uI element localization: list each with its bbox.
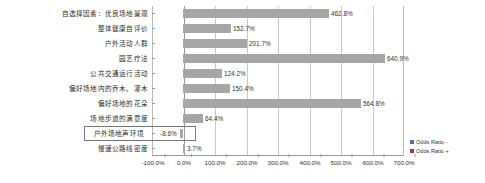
bar-value-label: 201.7% [249, 36, 271, 51]
bar-segment [183, 9, 329, 18]
bar-value-label: 150.4% [232, 81, 254, 96]
bar-row: 偏好场地的花朵 564.8% [0, 96, 485, 111]
category-label: 自选择因素：优良场地景观 [62, 6, 148, 21]
x-tick-label: 200.0% [237, 157, 258, 169]
axis-tick-stub [152, 103, 155, 104]
bar-value-label: 462.8% [331, 6, 353, 21]
bar-segment [183, 84, 230, 93]
legend-label: Odds Ratio + [416, 147, 449, 155]
x-tickmark [165, 154, 166, 157]
bar-value-label: 564.8% [363, 96, 385, 111]
axis-tick-stub [152, 13, 155, 14]
axis-tick-stub [152, 43, 155, 44]
bar-value-label: 152.7% [233, 21, 255, 36]
x-tick-label: 300.0% [268, 157, 289, 169]
bar-value-label: 64.4% [205, 111, 223, 126]
category-label: 慢速公路线密度 [98, 141, 148, 156]
x-tick-label: 100.0% [205, 157, 226, 169]
x-tick-label: 600.0% [363, 157, 384, 169]
bar-value-label: 3.7% [187, 141, 202, 156]
odds-ratio-bar-chart: 自选择因素：优良场地景观 462.8% 整体健康自评价 152.7% 户外活动人… [0, 0, 485, 183]
bar-segment [183, 69, 222, 78]
bar-segment [183, 144, 185, 153]
bar-segment [183, 54, 385, 63]
x-tickmark [321, 154, 322, 157]
bar-row: 自选择因素：优良场地景观 462.8% [0, 6, 485, 21]
x-tickmark [352, 154, 353, 157]
category-label: 户外活动人群 [105, 36, 148, 51]
axis-tick-stub [152, 118, 155, 119]
bar-segment [183, 24, 231, 33]
x-tick-label: 700.0% [394, 157, 415, 169]
bar-row: 偏好场地内的乔木、灌木 150.4% [0, 81, 485, 96]
bar-value-label: -8.6% [160, 126, 177, 141]
legend-item: Odds Ratio - [410, 138, 485, 146]
category-label: 户外场地声环境 [94, 126, 144, 141]
bar-rows: 自选择因素：优良场地景观 462.8% 整体健康自评价 152.7% 户外活动人… [0, 6, 485, 156]
bar-row: 整体健康自评价 152.7% [0, 21, 485, 36]
legend-item: Odds Ratio + [410, 147, 485, 155]
x-tickmark [384, 154, 385, 157]
axis-tick-stub [152, 28, 155, 29]
legend-swatch-icon [410, 149, 414, 153]
bar-row: 场地步道的满意度 64.4% [0, 111, 485, 126]
bar-value-label: 124.2% [224, 66, 246, 81]
legend-label: Odds Ratio - [416, 138, 447, 146]
x-tickmark [258, 154, 259, 157]
x-tick-label: 400.0% [300, 157, 321, 169]
axis-tick-stub [152, 148, 155, 149]
axis-tick-stub [152, 133, 155, 134]
bar-row: 公共交通运行活动 124.2% [0, 66, 485, 81]
chart-legend: Odds Ratio - Odds Ratio + [410, 138, 485, 156]
bar-row: 园艺疗法 640.9% [0, 51, 485, 66]
x-tickmark [191, 154, 192, 157]
bar-row: 户外活动人群 201.7% [0, 36, 485, 51]
axis-tick-stub [152, 88, 155, 89]
category-label: 场地步道的满意度 [90, 111, 148, 126]
category-label: 偏好场地的花朵 [98, 96, 148, 111]
axis-tick-stub [152, 73, 155, 74]
bar-segment [183, 114, 203, 123]
x-axis-ticks: -100.0% 0.0% 100.0% 200.0% 300.0% 400.0%… [0, 157, 485, 171]
x-tickmark [226, 154, 227, 157]
category-label: 偏好场地内的乔木、灌木 [69, 81, 148, 96]
x-tick-label: -100.0% [141, 157, 164, 169]
axis-tick-stub [152, 58, 155, 59]
bar-segment [180, 129, 183, 138]
bar-segment [183, 99, 361, 108]
category-label: 公共交通运行活动 [90, 66, 148, 81]
bar-segment [183, 39, 247, 48]
category-label: 整体健康自评价 [98, 21, 148, 36]
legend-swatch-icon [410, 140, 414, 144]
x-tick-label: 500.0% [331, 157, 352, 169]
x-tick-label: 0.0% [177, 157, 191, 169]
x-tickmark [289, 154, 290, 157]
bar-value-label: 640.9% [387, 51, 409, 66]
category-label: 园艺疗法 [119, 51, 148, 66]
